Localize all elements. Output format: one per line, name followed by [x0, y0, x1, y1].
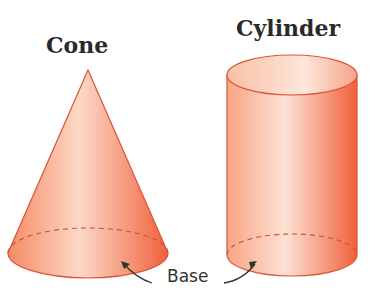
cylinder-top: [227, 55, 357, 95]
cone-shape: [8, 70, 168, 278]
cylinder-shape: [227, 55, 357, 276]
base-label: Base: [167, 266, 208, 286]
shapes-diagram: [0, 0, 375, 300]
